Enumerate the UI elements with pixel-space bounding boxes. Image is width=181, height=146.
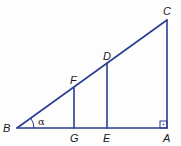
diagram-canvas: B G E A F D C α [0,0,181,146]
label-E: E [103,132,111,144]
triangle-diagram: B G E A F D C α [0,0,181,146]
angle-arc-alpha [31,118,34,128]
label-alpha: α [38,116,45,127]
segment-BC [17,20,167,128]
label-B: B [3,122,10,134]
label-D: D [103,50,111,62]
label-C: C [163,5,171,17]
right-angle-dot [163,124,165,126]
label-G: G [70,132,79,144]
label-A: A [162,132,170,144]
